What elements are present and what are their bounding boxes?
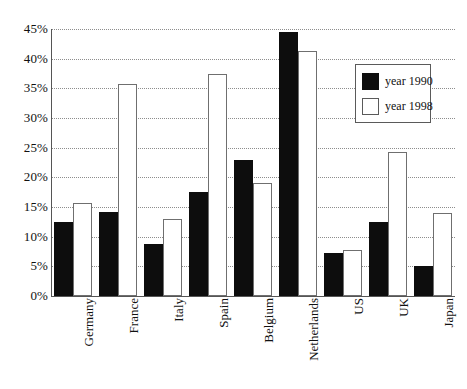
bar-group (275, 29, 320, 296)
y-axis-tick-label: 45% (4, 22, 48, 35)
bar (343, 250, 362, 296)
x-axis-tick-label: UK (396, 298, 412, 388)
legend-swatch-year-1990 (362, 73, 379, 90)
x-axis: GermanyFranceItalySpainBelgiumNetherland… (51, 298, 455, 389)
x-axis-tick-label: Netherlands (306, 298, 322, 388)
y-axis-tick-label: 10% (4, 230, 48, 243)
bar (298, 51, 317, 296)
bar (433, 213, 452, 296)
x-axis-tick-label: US (351, 298, 367, 388)
x-axis-tick-label: Spain (216, 298, 232, 388)
y-axis-tick-label: 40% (4, 52, 48, 65)
x-axis-tick-label: France (126, 298, 142, 388)
bar-group (96, 29, 141, 296)
legend: year 1990 year 1998 (355, 64, 431, 123)
bar-group (231, 29, 276, 296)
y-axis-tick-label: 5% (4, 259, 48, 272)
y-axis: 0%5%10%15%20%25%30%35%40%45% (0, 0, 48, 389)
x-axis-tick-label: Germany (81, 298, 97, 388)
bar (234, 160, 253, 296)
x-axis-tick-label: Japan (441, 298, 457, 388)
bar (279, 32, 298, 296)
y-axis-tick-label: 15% (4, 200, 48, 213)
y-axis-tick-label: 30% (4, 111, 48, 124)
bar (253, 183, 272, 296)
bar (208, 74, 227, 297)
x-axis-line (51, 296, 455, 297)
bar (189, 192, 208, 296)
bar (144, 244, 163, 296)
y-axis-tick-label: 25% (4, 141, 48, 154)
y-axis-tick-label: 20% (4, 170, 48, 183)
legend-label-year-1998: year 1998 (385, 98, 433, 115)
bar-chart: 0%5%10%15%20%25%30%35%40%45% GermanyFran… (0, 0, 467, 389)
bar (54, 222, 73, 296)
bar (118, 84, 137, 296)
bar (163, 219, 182, 296)
bar-group (186, 29, 231, 296)
bar (73, 203, 92, 296)
legend-swatch-year-1998 (362, 98, 379, 115)
bar-group (51, 29, 96, 296)
y-axis-tick-label: 35% (4, 81, 48, 94)
x-axis-tick-label: Italy (171, 298, 187, 388)
bar (388, 152, 407, 296)
bar (99, 212, 118, 296)
legend-label-year-1990: year 1990 (385, 73, 433, 90)
bar (324, 253, 343, 296)
bar-group (141, 29, 186, 296)
x-axis-tick-label: Belgium (261, 298, 277, 388)
y-axis-tick-label: 0% (4, 289, 48, 302)
bar (414, 266, 433, 296)
bar (369, 222, 388, 296)
